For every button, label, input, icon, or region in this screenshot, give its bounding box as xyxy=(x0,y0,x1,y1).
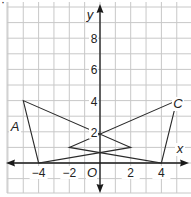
labels: −4−2242468OyxAC· xyxy=(1,0,185,180)
x-axis-arrow-right-icon xyxy=(180,160,189,167)
y-axis-arrow-up-icon xyxy=(97,4,104,13)
origin-label: O xyxy=(87,165,97,180)
coordinate-plane: −4−2242468OyxAC· xyxy=(0,0,191,197)
y-tick-label: 8 xyxy=(91,32,98,46)
x-tick-label: 4 xyxy=(158,166,165,180)
x-tick-label: −2 xyxy=(62,166,76,180)
y-tick-label: 6 xyxy=(91,63,98,77)
y-tick-label: 4 xyxy=(91,95,98,109)
x-tick-label: 2 xyxy=(127,166,134,180)
figure-label-a: A xyxy=(10,119,20,134)
x-tick-label: −4 xyxy=(32,166,46,180)
y-tick-label: 2 xyxy=(91,126,98,140)
y-axis-arrow-down-icon xyxy=(97,184,104,193)
figure-label-c: C xyxy=(173,96,183,111)
x-axis-label: x xyxy=(176,141,184,156)
grid-lines xyxy=(7,2,191,193)
corner-marker: · xyxy=(1,0,5,9)
